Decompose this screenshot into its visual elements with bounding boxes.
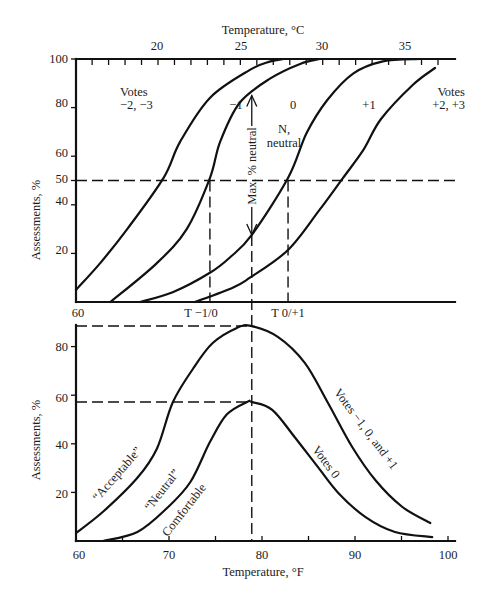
upper-ytick-label: 80: [56, 96, 69, 110]
t-0-plus1-label: T 0/+1: [271, 306, 305, 320]
zone-label-votes-pos: Votes: [437, 85, 465, 99]
acceptable-curve-label: “Acceptable”: [90, 444, 145, 504]
top-tick-label: 20: [151, 39, 164, 53]
top-tick-label: 25: [235, 39, 248, 53]
upper-ytick-label: 50: [56, 172, 69, 186]
upper-ytick-label: 40: [56, 194, 69, 208]
bottom-tick-label: 80: [256, 548, 269, 562]
upper-ytick-label: 20: [56, 243, 69, 257]
upper-x-start-label: 60: [72, 306, 85, 320]
zone-label-zero: 0: [290, 98, 296, 112]
max-neutral-label: Max. % neutral: [245, 127, 259, 205]
neutral-comfortable-curve: [103, 401, 432, 541]
lower-ytick-label: 40: [56, 438, 69, 452]
neutral-curve-label: “Neutral”: [142, 467, 183, 514]
top-tick-label: 30: [316, 39, 329, 53]
bottom-tick-label: 100: [439, 548, 458, 562]
zone-label-plus1: +1: [362, 98, 375, 112]
upper-ytick-label: 100: [49, 52, 68, 66]
bottom-tick-label: 60: [73, 548, 86, 562]
zone-label-votes-neg: Votes: [120, 85, 148, 99]
bottom-tick-label: 90: [349, 548, 362, 562]
neutral-label-n: N,: [278, 122, 290, 136]
lower-ytick-label: 60: [56, 391, 69, 405]
bottom-tick-label: 70: [163, 548, 176, 562]
thermal-comfort-figure: Temperature, °C 20 25 30 35 100 80 60 50…: [0, 0, 487, 604]
reference-lines: [76, 95, 455, 541]
lower-ytick-label: 20: [56, 487, 69, 501]
neutral-label-word: neutral: [267, 136, 302, 150]
bottom-axis-title: Temperature, °F: [222, 565, 303, 579]
lower-ytick-label: 80: [56, 340, 69, 354]
acceptable-curve: [76, 325, 430, 533]
zone-label-votes-pos-values: +2, +3: [432, 98, 465, 112]
top-tick-label: 35: [399, 39, 412, 53]
top-axis-title: Temperature, °C: [222, 23, 305, 37]
lower-panel: 80 60 40 20 Assessments, % 60 70 80 90 1…: [29, 325, 457, 579]
upper-y-axis-title: Assessments, %: [29, 180, 43, 261]
zone-label-votes-neg-values: −2, −3: [120, 98, 153, 112]
lower-y-axis-title: Assessments, %: [29, 400, 43, 481]
t-minus1-0-label: T −1/0: [184, 306, 218, 320]
upper-ytick-label: 60: [56, 146, 69, 160]
